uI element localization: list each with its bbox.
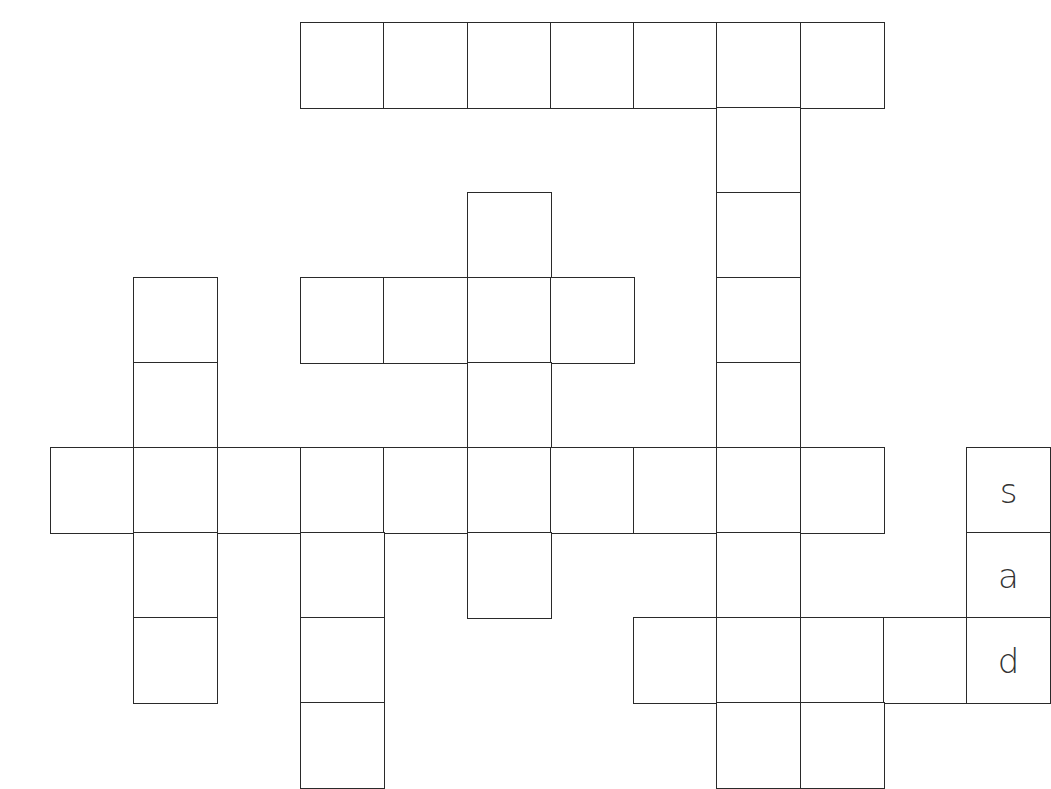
crossword-cell[interactable]	[383, 22, 468, 109]
crossword-cell[interactable]	[133, 362, 218, 449]
crossword-cell[interactable]	[716, 532, 801, 619]
crossword-cell[interactable]	[300, 617, 385, 704]
crossword-cell[interactable]	[800, 447, 885, 534]
crossword-cell[interactable]	[800, 702, 885, 789]
crossword-cell[interactable]	[300, 702, 385, 789]
crossword-cell[interactable]	[883, 617, 968, 704]
crossword-cell[interactable]: s	[966, 447, 1051, 534]
crossword-cell[interactable]	[467, 277, 552, 364]
crossword-cell[interactable]	[633, 617, 718, 704]
crossword-cell[interactable]	[550, 277, 635, 364]
crossword-cell[interactable]	[467, 532, 552, 619]
crossword-cell[interactable]	[800, 22, 885, 109]
crossword-cell[interactable]	[716, 277, 801, 364]
crossword-cell[interactable]	[550, 22, 635, 109]
crossword-cell[interactable]	[133, 277, 218, 364]
crossword-cell[interactable]	[716, 192, 801, 279]
crossword-cell[interactable]	[716, 702, 801, 789]
crossword-cell[interactable]	[716, 107, 801, 194]
crossword-cell[interactable]	[133, 447, 218, 534]
crossword-cell[interactable]	[467, 447, 552, 534]
crossword-cell[interactable]	[467, 22, 552, 109]
crossword-cell[interactable]	[716, 617, 801, 704]
crossword-cell[interactable]	[383, 447, 468, 534]
crossword-cell[interactable]	[467, 362, 552, 449]
crossword-cell[interactable]: a	[966, 532, 1051, 619]
crossword-cell[interactable]	[633, 22, 718, 109]
crossword-cell[interactable]	[550, 447, 635, 534]
crossword-cell[interactable]	[300, 277, 385, 364]
crossword-cell[interactable]	[716, 22, 801, 109]
crossword-cell[interactable]	[716, 362, 801, 449]
crossword-cell[interactable]	[300, 22, 385, 109]
crossword-cell[interactable]	[133, 532, 218, 619]
crossword-cell[interactable]	[50, 447, 135, 534]
crossword-cell[interactable]: d	[966, 617, 1051, 704]
crossword-cell[interactable]	[716, 447, 801, 534]
crossword-cell[interactable]	[300, 532, 385, 619]
crossword-cell[interactable]	[467, 192, 552, 279]
crossword-cell[interactable]	[800, 617, 885, 704]
crossword-cell[interactable]	[383, 277, 468, 364]
crossword-cell[interactable]	[133, 617, 218, 704]
crossword-cell[interactable]	[633, 447, 718, 534]
crossword-cell[interactable]	[217, 447, 302, 534]
crossword-cell[interactable]	[300, 447, 385, 534]
